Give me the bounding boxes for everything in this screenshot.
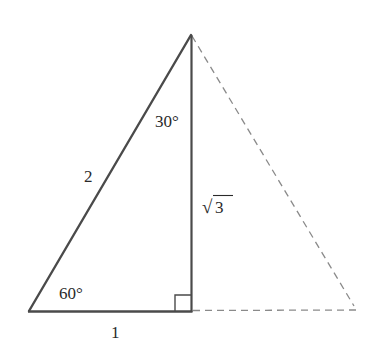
- sqrt-symbol: √: [202, 196, 213, 217]
- hypotenuse-length-label: 2: [84, 167, 93, 186]
- dashed-bottom-extension: [193, 310, 357, 311]
- dashed-right-side: [192, 36, 354, 306]
- sqrt-radicand: 3: [215, 198, 224, 217]
- hypotenuse-side: [29, 35, 191, 311]
- angle-label-30: 30°: [155, 112, 179, 131]
- vertical-leg-length-label: √ 3: [202, 196, 233, 218]
- angle-label-60: 60°: [59, 284, 83, 303]
- triangle-diagram: 30° 2 √ 3 60° 1: [0, 0, 381, 357]
- bottom-leg-length-label: 1: [111, 323, 120, 342]
- right-angle-marker: [175, 295, 191, 311]
